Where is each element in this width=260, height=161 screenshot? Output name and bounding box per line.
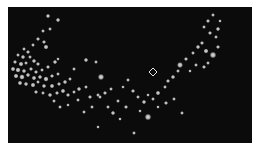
particle: [216, 45, 220, 49]
particle: [36, 62, 40, 66]
particle: [88, 95, 92, 99]
particle: [118, 117, 122, 121]
particle: [132, 131, 136, 135]
particle: [136, 95, 140, 99]
particle: [156, 105, 160, 109]
particle: [13, 60, 17, 64]
particle: [43, 76, 48, 81]
particle: [203, 48, 208, 53]
particle: [163, 85, 167, 89]
particle: [77, 87, 81, 91]
particle: [116, 99, 120, 103]
particle: [211, 13, 215, 17]
particle: [216, 27, 220, 31]
particle: [202, 65, 206, 69]
particle: [48, 93, 52, 97]
particle: [57, 82, 61, 86]
particle: [146, 93, 150, 97]
particle: [31, 43, 35, 47]
particle: [98, 95, 102, 99]
particle: [28, 55, 32, 59]
particle: [21, 55, 25, 59]
particle: [11, 67, 16, 72]
particle: [18, 81, 23, 86]
particle: [58, 105, 62, 109]
particle: [34, 70, 38, 74]
particle: [84, 85, 88, 89]
particle: [55, 91, 59, 95]
particle: [13, 73, 18, 78]
particle: [210, 52, 217, 59]
particle: [109, 87, 113, 91]
particle: [24, 82, 28, 86]
particle: [111, 111, 115, 115]
particle: [151, 97, 155, 101]
particle: [61, 89, 66, 94]
particle: [66, 93, 70, 97]
particle: [180, 111, 184, 115]
particles: [11, 13, 222, 135]
particle: [38, 75, 42, 79]
particle: [124, 105, 128, 109]
particle: [24, 61, 28, 65]
particle: [72, 90, 76, 94]
particle: [208, 31, 212, 35]
particle: [184, 57, 188, 61]
particle: [46, 14, 50, 18]
particle: [53, 60, 57, 64]
particle: [176, 69, 180, 73]
particle: [16, 53, 20, 57]
particle: [103, 91, 107, 95]
particle: [29, 67, 33, 71]
particle: [126, 78, 130, 82]
particle: [142, 100, 146, 104]
particle: [206, 61, 210, 65]
particle: [32, 76, 37, 81]
particle: [106, 105, 110, 109]
particle: [131, 89, 135, 93]
particle: [90, 105, 94, 109]
particle: [52, 99, 56, 103]
particle: [68, 77, 72, 81]
particle: [50, 74, 54, 78]
particle: [156, 91, 161, 96]
particle: [26, 50, 30, 54]
particle: [166, 79, 170, 83]
particle: [202, 25, 206, 29]
particle: [138, 109, 142, 113]
particle: [34, 90, 38, 94]
particle: [41, 29, 45, 33]
particle: [177, 62, 183, 68]
particle: [26, 73, 30, 77]
particle: [18, 61, 23, 66]
particle: [42, 40, 46, 44]
particle: [121, 85, 125, 89]
particle: [46, 65, 50, 69]
particle: [94, 60, 98, 64]
particle: [42, 84, 46, 88]
crosshair-diamond-icon[interactable]: [149, 68, 157, 76]
particle: [48, 27, 52, 31]
particle: [36, 37, 40, 41]
particle: [72, 67, 76, 71]
particle: [43, 44, 48, 49]
particle: [98, 74, 104, 80]
particle: [84, 58, 88, 62]
particle: [50, 84, 55, 89]
particle: [206, 19, 210, 23]
particle: [96, 125, 100, 129]
particle: [214, 35, 218, 39]
particle: [22, 47, 26, 51]
particle: [63, 80, 67, 84]
particle: [82, 110, 86, 114]
particle: [191, 51, 195, 55]
particle: [56, 57, 60, 61]
particle: [171, 75, 175, 79]
particle: [15, 67, 20, 72]
particle: [40, 68, 44, 72]
particle: [56, 18, 60, 22]
particle: [22, 69, 26, 73]
particle-image: [8, 7, 252, 143]
particle: [19, 74, 25, 80]
particle-field: [8, 7, 252, 143]
